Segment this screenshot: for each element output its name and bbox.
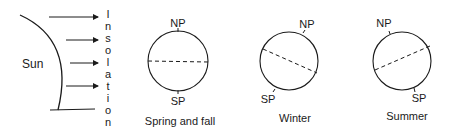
north-pole-label: NP (376, 17, 391, 29)
south-pole-label: SP (171, 95, 186, 107)
south-pole-label: SP (412, 92, 427, 104)
insolation-seasons-diagram: Sun I n s o l a t i o n NP SP Spring and… (0, 0, 451, 133)
north-pole-tick (303, 30, 305, 33)
panel-caption: Spring and fall (145, 115, 215, 127)
sun-label: Sun (22, 57, 43, 71)
north-pole-label: NP (170, 17, 185, 29)
north-pole-tick (389, 31, 390, 34)
insolation-letter: s (105, 32, 111, 44)
equator-dashed-line (375, 46, 430, 70)
ray-line-5 (50, 109, 95, 110)
insolation-label: I n s o l a t i o n (105, 8, 112, 128)
equator-dashed-line (263, 49, 317, 73)
equator-dashed-line (148, 61, 208, 62)
south-pole-label: SP (261, 93, 276, 105)
panel-summer: NP SP Summer (373, 17, 431, 122)
south-pole-tick (273, 89, 275, 92)
insolation-letter: o (105, 104, 111, 116)
insolation-letter: o (105, 44, 111, 56)
earth-circle (373, 32, 431, 90)
insolation-letter: i (107, 92, 109, 104)
sun: Sun (20, 15, 62, 110)
panel-winter: NP SP Winter (260, 18, 318, 124)
panel-spring-fall: NP SP Spring and fall (145, 17, 215, 127)
insolation-rays (49, 17, 98, 110)
insolation-letter: n (105, 20, 111, 32)
insolation-letter: t (106, 80, 109, 92)
insolation-letter: a (105, 68, 112, 80)
panel-caption: Winter (279, 112, 311, 124)
panel-caption: Summer (386, 110, 428, 122)
insolation-letter: l (107, 56, 109, 68)
insolation-letter: n (105, 116, 111, 128)
insolation-letter: I (106, 8, 109, 20)
north-pole-label: NP (299, 18, 314, 30)
